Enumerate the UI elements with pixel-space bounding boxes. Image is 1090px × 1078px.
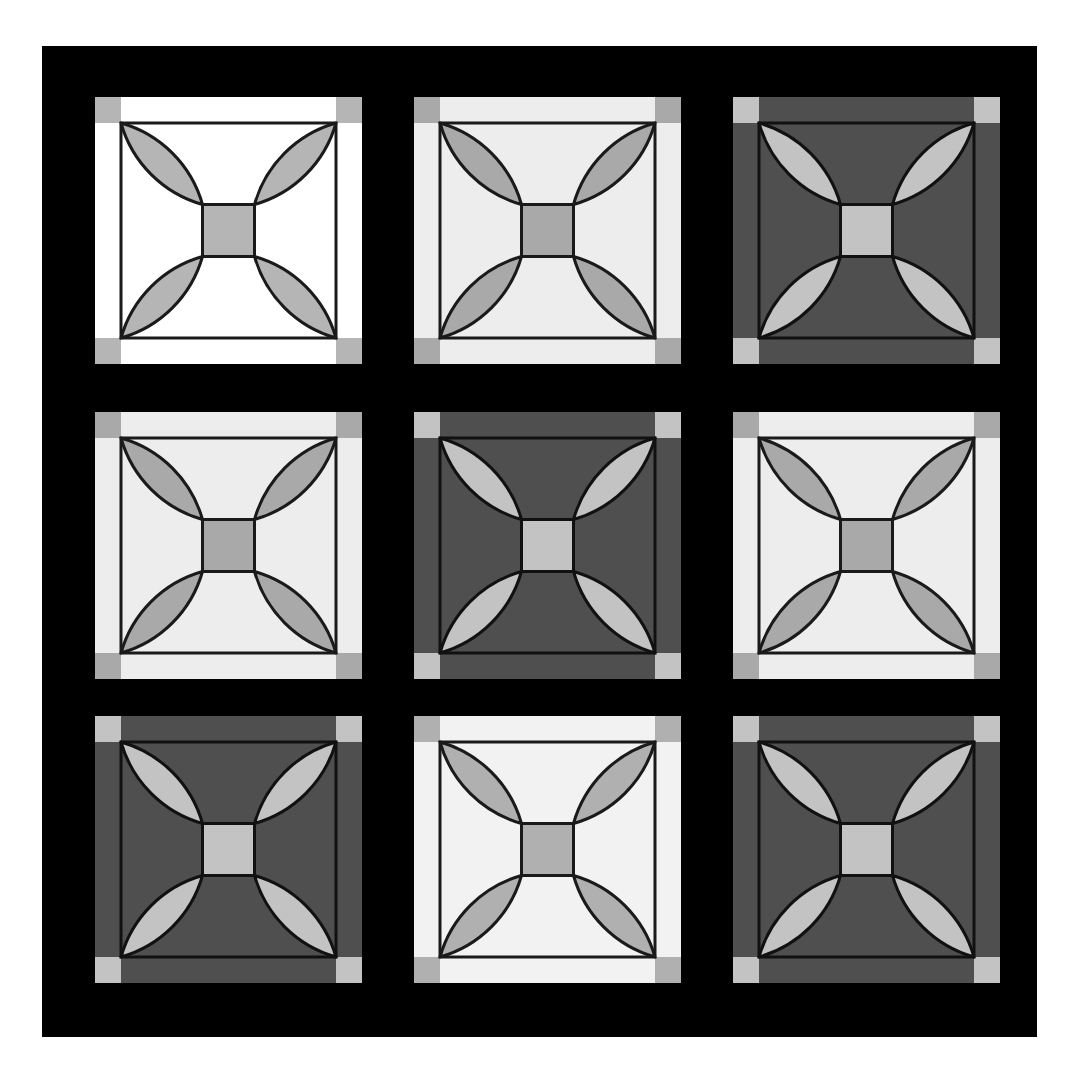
corner-square-top-right xyxy=(974,97,1000,123)
tile-r1-c2[interactable] xyxy=(733,412,1000,679)
corner-square-top-right xyxy=(336,412,362,438)
center-square xyxy=(841,520,893,572)
corner-square-top-right xyxy=(655,716,681,742)
center-square xyxy=(841,205,893,257)
center-square xyxy=(522,205,574,257)
corner-square-bottom-left xyxy=(733,653,759,679)
tile-r1-c0[interactable] xyxy=(95,412,362,679)
corner-square-top-right xyxy=(655,97,681,123)
corner-square-top-left xyxy=(414,716,440,742)
tile-r2-c2[interactable] xyxy=(733,716,1000,983)
corner-square-top-right xyxy=(655,412,681,438)
tile-r2-c0[interactable] xyxy=(95,716,362,983)
corner-square-top-left xyxy=(733,97,759,123)
corner-square-top-left xyxy=(95,412,121,438)
corner-square-top-left xyxy=(95,716,121,742)
corner-square-top-left xyxy=(733,716,759,742)
center-square xyxy=(841,824,893,876)
center-square xyxy=(203,205,255,257)
corner-square-top-left xyxy=(414,97,440,123)
corner-square-bottom-left xyxy=(733,957,759,983)
corner-square-bottom-left xyxy=(414,957,440,983)
corner-square-bottom-left xyxy=(95,338,121,364)
corner-square-bottom-right xyxy=(655,338,681,364)
corner-square-bottom-right xyxy=(655,653,681,679)
corner-square-top-right xyxy=(974,412,1000,438)
artboard xyxy=(0,0,1090,1078)
corner-square-top-left xyxy=(733,412,759,438)
corner-square-bottom-right xyxy=(336,653,362,679)
center-square xyxy=(522,824,574,876)
corner-square-bottom-left xyxy=(414,653,440,679)
corner-square-bottom-right xyxy=(974,653,1000,679)
corner-square-bottom-left xyxy=(95,957,121,983)
corner-square-top-right xyxy=(974,716,1000,742)
tile-r0-c2[interactable] xyxy=(733,97,1000,364)
corner-square-top-left xyxy=(95,97,121,123)
corner-square-bottom-left xyxy=(733,338,759,364)
center-square xyxy=(522,520,574,572)
corner-square-bottom-right xyxy=(974,957,1000,983)
center-square xyxy=(203,520,255,572)
corner-square-top-left xyxy=(414,412,440,438)
corner-square-bottom-right xyxy=(974,338,1000,364)
corner-square-bottom-right xyxy=(655,957,681,983)
corner-square-bottom-right xyxy=(336,957,362,983)
corner-square-bottom-left xyxy=(95,653,121,679)
center-square xyxy=(203,824,255,876)
corner-square-top-right xyxy=(336,97,362,123)
corner-square-top-right xyxy=(336,716,362,742)
tile-r0-c0[interactable] xyxy=(95,97,362,364)
tile-r1-c1[interactable] xyxy=(414,412,681,679)
tile-r0-c1[interactable] xyxy=(414,97,681,364)
corner-square-bottom-left xyxy=(414,338,440,364)
tile-grid xyxy=(0,0,1090,1078)
tile-r2-c1[interactable] xyxy=(414,716,681,983)
corner-square-bottom-right xyxy=(336,338,362,364)
